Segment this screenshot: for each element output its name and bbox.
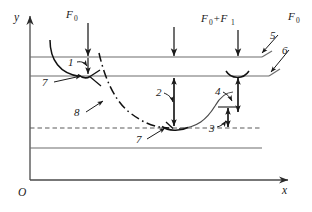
callout-3-label: 3: [208, 122, 215, 134]
text-labels-group: y x O F 0 F 0 +F 1 F 0 1 2 3 4 5 6 7 7 8: [13, 8, 300, 198]
callout-7-right-label: 7: [136, 133, 142, 145]
x-axis-label: x: [281, 184, 288, 196]
right-end-bends: [262, 51, 280, 76]
callout-6-label: 6: [282, 44, 288, 56]
callout-8-leader: [86, 101, 103, 112]
callout-7-left-leader: [54, 76, 81, 82]
callout-5-label: 5: [270, 29, 276, 41]
axis-group: [30, 16, 288, 180]
origin-label: O: [18, 186, 27, 198]
callout-8-label: 8: [74, 106, 80, 118]
callout-1-label: 1: [68, 56, 74, 68]
force-f0-left-label: F: [65, 8, 73, 20]
left-node-tick-2: [90, 77, 101, 86]
boundary-lines-group: [30, 57, 269, 148]
left-hook-curve: [50, 40, 80, 77]
callout-leaders-group: [54, 35, 289, 139]
y-axis-label: y: [13, 11, 20, 24]
force-f0f1-plus-f: +F: [213, 12, 227, 24]
figure-root: y x O F 0 F 0 +F 1 F 0 1 2 3 4 5 6 7 7 8: [0, 0, 312, 212]
diagram-canvas: y x O F 0 F 0 +F 1 F 0 1 2 3 4 5 6 7 7 8: [0, 0, 312, 212]
callout-7-left-label: 7: [42, 76, 48, 88]
node-marks-group: [78, 70, 249, 130]
force-f0-right-subscript: 0: [296, 16, 300, 25]
force-f0f1-label-f: F: [200, 12, 208, 24]
callout-2-leader: [164, 93, 173, 102]
force-f0-left-subscript: 0: [74, 14, 78, 23]
callout-2-label: 2: [156, 86, 162, 98]
force-f0f1-sub1: 1: [231, 18, 235, 27]
lower-line-bend: [269, 69, 280, 76]
callout-4-label: 4: [215, 85, 221, 97]
callout-1-leader: [77, 62, 87, 66]
callout-7-right-leader: [147, 128, 165, 139]
callout-3-leader: [217, 121, 226, 127]
force-f0-right-label: F: [287, 10, 295, 22]
force-arrows-group: [88, 23, 238, 56]
